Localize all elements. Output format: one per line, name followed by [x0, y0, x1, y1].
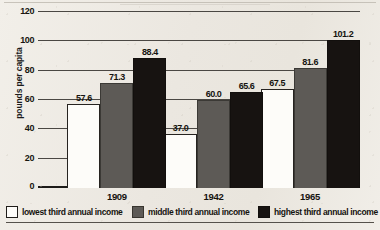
bar-slot: 101.2 [327, 12, 360, 188]
scan-artifact-line-secondary [120, 4, 270, 5]
legend-item[interactable]: lowest third annual income [6, 206, 122, 218]
bar-value-label: 71.3 [109, 72, 125, 82]
bar[interactable]: 60.0 [197, 100, 230, 188]
bar-slot: 67.5 [261, 12, 294, 188]
y-axis-tick-label: 60 [25, 94, 34, 104]
x-axis-tick-label: 1965 [300, 191, 320, 202]
bar-value-label: 101.2 [333, 29, 353, 39]
bar-value-label: 37.0 [173, 123, 189, 133]
legend-label: middle third annual income [148, 207, 249, 217]
bar-value-label: 60.0 [206, 89, 222, 99]
bar[interactable]: 88.4 [133, 58, 166, 188]
bar-value-label: 57.6 [76, 93, 92, 103]
bar-group: 67.581.6101.2 [261, 12, 360, 188]
legend-item[interactable]: highest third annual income [258, 206, 378, 218]
legend-color-swatch [6, 206, 18, 218]
y-axis-tick-label: 80 [25, 65, 34, 75]
bar-slot: 65.6 [230, 12, 263, 188]
y-axis-tick-label: 100 [20, 35, 34, 45]
bar[interactable]: 81.6 [294, 68, 327, 188]
legend-label: lowest third annual income [22, 207, 122, 217]
legend-color-swatch [258, 206, 270, 218]
bar-slot: 60.0 [197, 12, 230, 188]
bar[interactable]: 101.2 [327, 40, 360, 188]
x-axis-tick-label: 1942 [204, 191, 224, 202]
x-axis-tick-label: 1909 [107, 191, 127, 202]
bar-slot: 37.0 [164, 12, 197, 188]
plot-area: 020406080100120 57.671.388.437.060.065.6… [38, 12, 360, 188]
legend-item[interactable]: middle third annual income [132, 206, 249, 218]
bar-slot: 57.6 [67, 12, 100, 188]
bar-group: 37.060.065.6 [164, 12, 263, 188]
bar-chart-figure: pounds per capita 020406080100120 57.671… [0, 0, 380, 230]
chart-legend: lowest third annual incomemiddle third a… [6, 206, 374, 220]
y-axis-tick-label: 40 [25, 123, 34, 133]
y-axis-tick-label: 20 [25, 153, 34, 163]
bar-value-label: 88.4 [142, 47, 158, 57]
bar[interactable]: 71.3 [100, 83, 133, 188]
legend-divider [6, 222, 374, 223]
bar[interactable]: 37.0 [164, 134, 197, 188]
bar-value-label: 81.6 [302, 57, 318, 67]
y-axis-tick-label: 0 [29, 181, 34, 191]
x-axis-tick-labels: 190919421965 [38, 191, 360, 205]
bar-slot: 71.3 [100, 12, 133, 188]
bar[interactable]: 65.6 [230, 92, 263, 188]
bar-value-label: 67.5 [269, 78, 285, 88]
bar[interactable]: 57.6 [67, 104, 100, 188]
scan-artifact-line [4, 2, 376, 3]
legend-color-swatch [132, 206, 144, 218]
bar-slot: 81.6 [294, 12, 327, 188]
bar-slot: 88.4 [133, 12, 166, 188]
bar-value-label: 65.6 [239, 81, 255, 91]
bar[interactable]: 67.5 [261, 89, 294, 188]
bar-group: 57.671.388.4 [67, 12, 166, 188]
y-axis-tick-label: 120 [20, 6, 34, 16]
bar-groups: 57.671.388.437.060.065.667.581.6101.2 [38, 12, 360, 188]
legend-label: highest third annual income [274, 207, 378, 217]
